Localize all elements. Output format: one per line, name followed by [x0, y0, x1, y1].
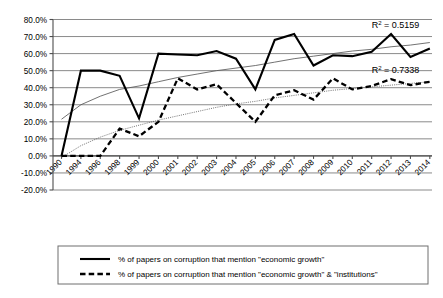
x-tick-label: 2002	[180, 158, 200, 178]
x-tick-label: 2008	[297, 158, 317, 178]
y-tick-label: 80.0%	[24, 16, 47, 25]
y-tick-label: -10.0%	[21, 169, 47, 178]
trendline-2	[62, 82, 430, 158]
trendlines-group	[62, 43, 430, 158]
x-tick-label: 2000	[142, 158, 162, 178]
x-tick-label: 2001	[161, 158, 181, 178]
x-tick-label: 1998	[103, 158, 123, 178]
x-tick-label: 2006	[258, 158, 278, 178]
x-tick-label: 2003	[200, 158, 220, 178]
x-tick-label: 1996	[83, 158, 103, 178]
r-squared-label-2: R2 = 0.7338	[372, 65, 420, 75]
data-series-group	[62, 34, 430, 156]
x-axis-tick-labels: 1990199419961998199920002001200220032004…	[45, 158, 433, 178]
chart-container: 80.0%70.0%60.0%50.0%40.0%30.0%20.0%10.0%…	[0, 0, 443, 298]
y-tick-label: 20.0%	[24, 118, 47, 127]
series-line-2	[62, 78, 430, 156]
x-tick-label: 1990	[45, 158, 65, 178]
series-line-1	[62, 34, 430, 156]
legend-item-label: % of papers on corruption that mention "…	[118, 255, 324, 264]
y-tick-label: 50.0%	[24, 67, 47, 76]
line-chart: 80.0%70.0%60.0%50.0%40.0%30.0%20.0%10.0%…	[0, 0, 443, 298]
x-tick-label: 2004	[219, 158, 239, 178]
y-tick-label: 70.0%	[24, 33, 47, 42]
x-tick-label: 2005	[239, 158, 259, 178]
y-tick-label: 40.0%	[24, 84, 47, 93]
r2-value: = 0.5159	[382, 20, 420, 30]
y-tick-label: 60.0%	[24, 50, 47, 59]
chart-legend: % of papers on corruption that mention "…	[58, 246, 428, 284]
x-tick-label: 1994	[64, 158, 84, 178]
y-tick-label: 30.0%	[24, 101, 47, 110]
x-tick-label: 2011	[355, 158, 374, 177]
x-tick-label: 2009	[316, 158, 336, 178]
x-tick-label: 2014	[413, 158, 433, 178]
r2-value: = 0.7338	[382, 65, 420, 75]
y-tick-label: 0.0%	[28, 152, 47, 161]
r-squared-label-1: R2 = 0.5159	[372, 20, 420, 30]
x-tick-label: 2007	[277, 158, 297, 178]
legend-item-label: % of papers on corruption that mention "…	[118, 270, 378, 279]
x-tick-label: 2010	[335, 158, 355, 178]
x-tick-label: 2013	[394, 158, 414, 178]
x-tick-label: 1999	[122, 158, 142, 178]
y-tick-label: -20.0%	[21, 186, 47, 195]
y-tick-label: 10.0%	[24, 135, 47, 144]
x-tick-label: 2012	[374, 158, 394, 178]
r-squared-annotations: R2 = 0.5159R2 = 0.7338	[372, 20, 420, 75]
